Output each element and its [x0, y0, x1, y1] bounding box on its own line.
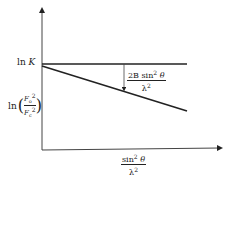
- x-axis: [42, 148, 220, 150]
- y-numerator: Fo2: [24, 92, 36, 106]
- x-denominator: λ2: [129, 165, 138, 177]
- annotation-label: 2B sin2 θ λ2: [127, 68, 166, 93]
- k-text: K: [29, 57, 36, 67]
- ln-text: ln: [17, 57, 26, 67]
- paren-right: ): [36, 96, 42, 115]
- ln-text: ln: [8, 101, 17, 111]
- ln-k-label: ln K: [17, 57, 35, 67]
- annotation-denominator: λ2: [142, 81, 151, 93]
- y-denominator: Fc2: [24, 106, 36, 119]
- y-axis-label: ln ( Fo2 Fc2 ): [8, 92, 42, 120]
- x-numerator: sin2 θ: [121, 152, 146, 165]
- y-fraction: Fo2 Fc2: [24, 92, 36, 120]
- x-axis-label: sin2 θ λ2: [121, 152, 146, 177]
- annotation-numerator: 2B sin2 θ: [127, 68, 166, 81]
